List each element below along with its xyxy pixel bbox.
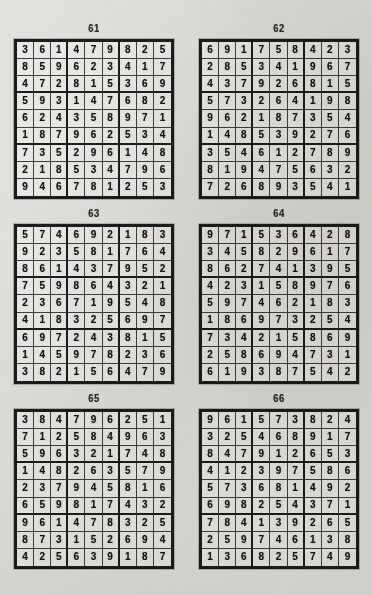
sudoku-cell[interactable]: 6	[34, 515, 51, 532]
sudoku-cell[interactable]: 3	[34, 145, 51, 162]
sudoku-cell[interactable]: 3	[288, 412, 305, 429]
sudoku-cell[interactable]: 2	[68, 330, 85, 347]
sudoku-cell[interactable]: 3	[17, 412, 34, 429]
sudoku-cell[interactable]: 4	[154, 532, 171, 549]
sudoku-cell[interactable]: 7	[288, 110, 305, 127]
sudoku-cell[interactable]: 3	[51, 244, 68, 261]
sudoku-cell[interactable]: 2	[34, 110, 51, 127]
sudoku-cell[interactable]: 8	[34, 412, 51, 429]
sudoku-cell[interactable]: 8	[202, 261, 219, 278]
sudoku-cell[interactable]: 4	[270, 59, 287, 76]
sudoku-cell[interactable]: 5	[154, 42, 171, 59]
sudoku-cell[interactable]: 8	[51, 162, 68, 179]
sudoku-cell[interactable]: 7	[236, 446, 253, 463]
sudoku-cell[interactable]: 6	[17, 110, 34, 127]
sudoku-cell[interactable]: 2	[137, 42, 154, 59]
sudoku-grid-66[interactable]: 9615738243254689178479126534123975865736…	[199, 409, 359, 569]
sudoku-cell[interactable]: 6	[236, 179, 253, 196]
sudoku-cell[interactable]: 9	[34, 330, 51, 347]
sudoku-cell[interactable]: 8	[17, 59, 34, 76]
sudoku-cell[interactable]: 2	[253, 330, 270, 347]
sudoku-cell[interactable]: 5	[322, 313, 339, 330]
sudoku-cell[interactable]: 5	[68, 244, 85, 261]
sudoku-cell[interactable]: 3	[305, 261, 322, 278]
sudoku-cell[interactable]: 3	[17, 364, 34, 381]
sudoku-cell[interactable]: 9	[339, 549, 356, 566]
sudoku-cell[interactable]: 8	[288, 429, 305, 446]
sudoku-cell[interactable]: 5	[202, 480, 219, 497]
sudoku-cell[interactable]: 6	[322, 330, 339, 347]
sudoku-cell[interactable]: 4	[51, 110, 68, 127]
sudoku-cell[interactable]: 3	[236, 480, 253, 497]
sudoku-cell[interactable]: 7	[322, 498, 339, 515]
sudoku-cell[interactable]: 1	[34, 429, 51, 446]
sudoku-cell[interactable]: 3	[270, 128, 287, 145]
sudoku-cell[interactable]: 8	[339, 227, 356, 244]
sudoku-cell[interactable]: 4	[288, 347, 305, 364]
sudoku-cell[interactable]: 4	[51, 227, 68, 244]
sudoku-cell[interactable]: 9	[305, 429, 322, 446]
sudoku-cell[interactable]: 7	[103, 498, 120, 515]
sudoku-cell[interactable]: 7	[85, 42, 102, 59]
sudoku-cell[interactable]: 4	[202, 463, 219, 480]
sudoku-cell[interactable]: 4	[322, 179, 339, 196]
sudoku-cell[interactable]: 8	[120, 480, 137, 497]
sudoku-cell[interactable]: 1	[339, 498, 356, 515]
sudoku-cell[interactable]: 3	[137, 128, 154, 145]
sudoku-cell[interactable]: 2	[305, 515, 322, 532]
sudoku-cell[interactable]: 7	[236, 295, 253, 312]
sudoku-cell[interactable]: 8	[17, 532, 34, 549]
sudoku-cell[interactable]: 8	[288, 278, 305, 295]
sudoku-cell[interactable]: 1	[270, 330, 287, 347]
sudoku-cell[interactable]: 9	[288, 515, 305, 532]
sudoku-cell[interactable]: 9	[137, 532, 154, 549]
sudoku-cell[interactable]: 5	[68, 162, 85, 179]
sudoku-cell[interactable]: 5	[253, 227, 270, 244]
sudoku-cell[interactable]: 2	[85, 59, 102, 76]
sudoku-cell[interactable]: 9	[270, 463, 287, 480]
sudoku-cell[interactable]: 4	[236, 145, 253, 162]
sudoku-cell[interactable]: 3	[322, 532, 339, 549]
sudoku-cell[interactable]: 2	[219, 179, 236, 196]
sudoku-cell[interactable]: 5	[34, 498, 51, 515]
sudoku-cell[interactable]: 9	[85, 227, 102, 244]
sudoku-cell[interactable]: 2	[322, 227, 339, 244]
sudoku-cell[interactable]: 3	[103, 463, 120, 480]
sudoku-cell[interactable]: 5	[154, 515, 171, 532]
sudoku-cell[interactable]: 5	[137, 261, 154, 278]
sudoku-cell[interactable]: 2	[322, 412, 339, 429]
sudoku-cell[interactable]: 5	[17, 227, 34, 244]
sudoku-cell[interactable]: 1	[202, 128, 219, 145]
sudoku-cell[interactable]: 3	[51, 532, 68, 549]
sudoku-cell[interactable]: 7	[137, 110, 154, 127]
sudoku-cell[interactable]: 8	[270, 480, 287, 497]
sudoku-cell[interactable]: 7	[202, 179, 219, 196]
sudoku-cell[interactable]: 6	[137, 429, 154, 446]
sudoku-cell[interactable]: 1	[236, 227, 253, 244]
sudoku-cell[interactable]: 6	[339, 463, 356, 480]
sudoku-cell[interactable]: 8	[154, 446, 171, 463]
sudoku-cell[interactable]: 6	[253, 145, 270, 162]
sudoku-cell[interactable]: 4	[103, 429, 120, 446]
sudoku-cell[interactable]: 2	[154, 261, 171, 278]
sudoku-cell[interactable]: 3	[51, 93, 68, 110]
sudoku-cell[interactable]: 5	[202, 93, 219, 110]
sudoku-cell[interactable]: 2	[51, 429, 68, 446]
sudoku-cell[interactable]: 4	[253, 295, 270, 312]
sudoku-cell[interactable]: 9	[34, 93, 51, 110]
sudoku-cell[interactable]: 8	[322, 295, 339, 312]
sudoku-cell[interactable]: 4	[85, 330, 102, 347]
sudoku-cell[interactable]: 8	[68, 278, 85, 295]
sudoku-cell[interactable]: 5	[137, 179, 154, 196]
sudoku-cell[interactable]: 6	[253, 347, 270, 364]
sudoku-cell[interactable]: 2	[270, 549, 287, 566]
sudoku-cell[interactable]: 3	[305, 498, 322, 515]
sudoku-cell[interactable]: 1	[305, 295, 322, 312]
sudoku-cell[interactable]: 6	[253, 480, 270, 497]
sudoku-cell[interactable]: 8	[253, 244, 270, 261]
sudoku-cell[interactable]: 4	[236, 515, 253, 532]
sudoku-cell[interactable]: 5	[305, 179, 322, 196]
sudoku-cell[interactable]: 2	[339, 162, 356, 179]
sudoku-cell[interactable]: 5	[236, 429, 253, 446]
sudoku-cell[interactable]: 6	[103, 145, 120, 162]
